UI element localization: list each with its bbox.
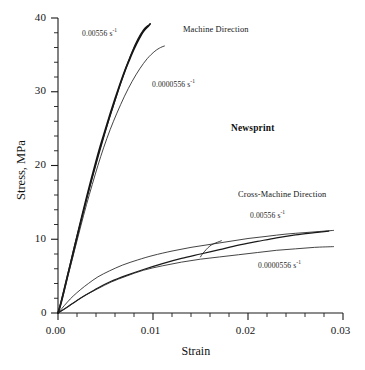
annotation-exponent: -1 bbox=[112, 27, 117, 33]
x-axis-title: Strain bbox=[182, 344, 211, 359]
x-tick-label: 0.02 bbox=[236, 324, 256, 336]
x-tick-label: 0.01 bbox=[141, 324, 161, 336]
y-tick-label: 30 bbox=[35, 84, 46, 96]
curve-cross_machine-3 bbox=[58, 230, 334, 313]
x-tick-label: 0.00 bbox=[46, 324, 66, 336]
curve-machine-1 bbox=[58, 25, 148, 313]
annotation-md-fast-rate: 0.00556 s-1 bbox=[82, 29, 117, 38]
annotation-exponent: -1 bbox=[280, 209, 285, 215]
annotation-cmd-title: Cross-Machine Direction bbox=[238, 190, 326, 199]
annotation-cmd-slow-rate: 0.0000556 s-1 bbox=[258, 261, 301, 270]
y-tick-label: 20 bbox=[35, 158, 46, 170]
y-axis-title: Stress, MPa bbox=[14, 140, 29, 200]
curve-cross_machine-5 bbox=[58, 247, 334, 313]
annotation-material: Newsprint bbox=[231, 123, 274, 133]
annotation-cmd-fast-rate: 0.00556 s-1 bbox=[250, 211, 285, 220]
stress-strain-plot bbox=[0, 0, 365, 370]
curve-cross_machine-4 bbox=[58, 231, 329, 313]
x-tick-label: 0.03 bbox=[331, 324, 351, 336]
annotation-text: 0.00556 s bbox=[250, 211, 280, 220]
annotation-exponent: -1 bbox=[190, 78, 195, 84]
annotation-text: 0.0000556 s bbox=[152, 80, 190, 89]
y-tick-label: 10 bbox=[35, 232, 46, 244]
figure-container: 0 10 20 30 40 0.00 0.01 0.02 0.03 Strain… bbox=[0, 0, 365, 370]
annotation-text: 0.00556 s bbox=[82, 29, 112, 38]
y-tick-label: 0 bbox=[41, 306, 47, 318]
curve-machine-0 bbox=[58, 24, 150, 313]
annotation-exponent: -1 bbox=[296, 259, 301, 265]
annotation-md-slow-rate: 0.0000556 s-1 bbox=[152, 80, 195, 89]
curve-machine-2 bbox=[58, 46, 164, 313]
annotation-md-title: Machine Direction bbox=[183, 25, 249, 34]
y-tick-label: 40 bbox=[35, 11, 46, 23]
annotation-text: 0.0000556 s bbox=[258, 261, 296, 270]
